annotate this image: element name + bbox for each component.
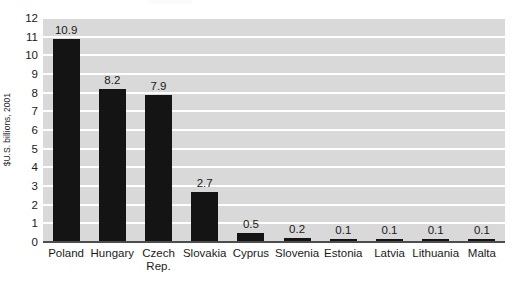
bar: [99, 89, 126, 242]
y-tick-label: 9: [14, 69, 38, 80]
bar-chart: $U.S. billions, 2001 0123456789101112 Po…: [0, 0, 527, 281]
x-category-label: Hungary: [91, 247, 134, 260]
y-tick-label: 7: [14, 106, 38, 117]
x-axis-line: [43, 241, 505, 243]
bar-value-label: 2.7: [197, 178, 213, 189]
y-tick-label: 8: [14, 87, 38, 98]
bar-value-label: 0.1: [474, 225, 490, 236]
x-category-label: Malta: [468, 247, 496, 260]
cropped-title-artifact: [148, 0, 192, 4]
y-tick-label: 2: [14, 199, 38, 210]
bar-value-label: 0.1: [428, 225, 444, 236]
y-axis-title: $U.S. billions, 2001: [0, 18, 14, 242]
x-category-label: Slovakia: [183, 247, 226, 260]
y-tick-label: 4: [14, 162, 38, 173]
bar: [145, 95, 172, 242]
x-axis-category-labels: PolandHungaryCzech Rep.SlovakiaCyprusSlo…: [43, 247, 505, 281]
gridline: [43, 18, 505, 19]
x-category-label: Czech Rep.: [142, 247, 175, 273]
x-category-label: Slovenia: [275, 247, 319, 260]
x-category-label: Lithuania: [412, 247, 459, 260]
y-tick-label: 12: [14, 13, 38, 24]
bar-value-label: 7.9: [151, 81, 167, 92]
y-axis-tick-labels: 0123456789101112: [14, 0, 42, 281]
y-tick-label: 10: [14, 50, 38, 61]
x-category-label: Latvia: [374, 247, 405, 260]
x-category-label: Poland: [48, 247, 84, 260]
gridline: [43, 54, 505, 56]
y-tick-label: 1: [14, 218, 38, 229]
y-axis-title-text: $U.S. billions, 2001: [3, 93, 12, 166]
bar: [191, 192, 218, 242]
y-tick-label: 11: [14, 31, 38, 42]
bar-value-label: 0.1: [382, 225, 398, 236]
bar-value-label: 10.9: [55, 25, 77, 36]
y-tick-label: 5: [14, 143, 38, 154]
bar-value-label: 8.2: [104, 75, 120, 86]
bar-value-label: 0.5: [243, 219, 259, 230]
plot-area: [43, 18, 505, 242]
x-category-label: Cyprus: [233, 247, 269, 260]
y-tick-label: 6: [14, 125, 38, 136]
y-tick-label: 0: [14, 237, 38, 248]
bar: [53, 39, 80, 242]
x-category-label: Estonia: [324, 247, 362, 260]
bar-value-label: 0.1: [335, 225, 351, 236]
y-tick-label: 3: [14, 181, 38, 192]
bar-value-label: 0.2: [289, 224, 305, 235]
gridline: [43, 36, 505, 38]
